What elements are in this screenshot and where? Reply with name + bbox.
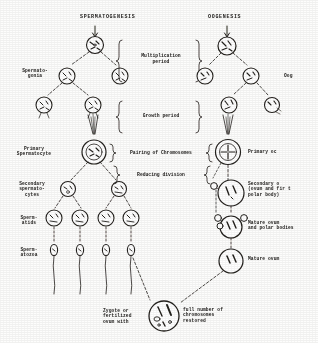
cell-spermatogonium-2a	[59, 68, 75, 84]
polar-body-c	[241, 215, 248, 222]
phase-reducing-division: Reducing division	[122, 172, 200, 178]
left-entry-arrow	[93, 26, 98, 37]
label-oogonia: Oog	[284, 73, 318, 78]
phase-growth-period: Growth period	[126, 113, 196, 119]
bracket-pairing-right	[206, 144, 212, 162]
cell-oogonium-3b	[265, 98, 280, 113]
cell-spermatid-1	[46, 210, 62, 226]
cell-spermatozoon-2	[76, 245, 83, 295]
label-chromosomes-restored: full number of chromosomes restored	[183, 307, 245, 323]
cell-spermatid-3	[98, 210, 114, 226]
bracket-reducing-right	[204, 166, 210, 184]
cell-spermatogonium-3b	[85, 97, 101, 113]
label-mature-ovum-and-polar-bodies: Mature ovum and polar bodies	[248, 220, 318, 231]
phase-pairing-of-chromosomes: Pairing of Chromosomes	[118, 150, 204, 156]
label-mature-ovum: Mature ovum	[248, 256, 318, 261]
label-spermatogonia: Spermato- gonia	[14, 68, 56, 79]
cell-oogonium-2b	[243, 68, 259, 84]
label-spermatozoa: Sperm- atozoa	[10, 247, 48, 258]
phase-multiplication-period: Multiplication period	[126, 53, 196, 64]
cell-spermatid-4	[123, 210, 139, 226]
cell-secondary-spermatocyte-a	[61, 182, 76, 197]
cell-spermatogonium-root	[87, 37, 104, 54]
right-growth-funnel	[223, 114, 233, 134]
title-spermatogenesis: SPERMATOGENESIS	[80, 14, 136, 20]
bracket-growth-right	[196, 101, 202, 133]
bracket-growth-left	[116, 101, 122, 133]
cell-spermatid-2	[72, 210, 88, 226]
cell-spermatozoon-3	[102, 245, 109, 295]
cell-spermatogonium-3a	[36, 97, 52, 113]
cell-primary-oocyte	[216, 140, 241, 165]
label-secondary-spermatocytes: Secondary spermato- cytes	[8, 181, 56, 197]
bracket-pairing-left	[110, 144, 116, 162]
cell-oogonium-root	[218, 37, 236, 55]
meiosis-diagram: SPERMATOGENESIS OOGENESIS Spermato- goni…	[0, 0, 318, 343]
left-growth-funnel	[88, 114, 98, 134]
label-primary-spermatocyte: Primary Spermatocyte	[8, 146, 60, 157]
title-oogenesis: OOGENESIS	[208, 14, 241, 20]
cell-oogonium-3a	[221, 97, 237, 113]
right-entry-arrow	[225, 26, 230, 37]
cell-primary-spermatocyte	[82, 140, 106, 164]
cell-secondary-oocyte	[218, 180, 244, 206]
polar-body-first	[211, 183, 218, 190]
polar-body-a	[215, 215, 222, 222]
label-spermatids: Sperm- atids	[10, 215, 48, 226]
cell-oogonium-2a	[197, 68, 213, 84]
cell-mature-ovum	[219, 249, 243, 273]
polar-body-b	[217, 223, 223, 229]
cell-spermatozoon-1	[50, 245, 57, 295]
cell-zygote	[149, 301, 179, 331]
cell-spermatozoon-4	[127, 245, 134, 295]
label-secondary-oocyte: Secondary o (ovum and fir t polar body)	[248, 181, 318, 197]
label-zygote: Zygote or fertilized ovum with	[103, 308, 149, 324]
label-primary-oocyte: Primary oc	[248, 149, 318, 154]
